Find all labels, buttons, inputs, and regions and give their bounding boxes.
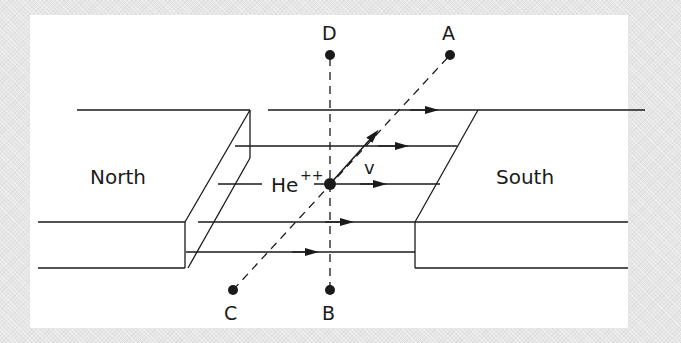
magnetic-field-diagram: North South D A C B He ++ v (0, 0, 681, 343)
particle-dot (324, 178, 336, 190)
point-b-dot (325, 285, 335, 295)
label-particle-charge: ++ (300, 167, 323, 183)
label-north: North (90, 165, 146, 189)
dashed-line-ca (233, 55, 450, 290)
point-c-dot (228, 285, 238, 295)
north-magnet (38, 110, 250, 268)
label-south: South (496, 165, 554, 189)
label-point-d: D (322, 22, 337, 44)
point-d-dot (325, 50, 335, 60)
label-point-a: A (442, 22, 455, 44)
south-magnet (415, 110, 645, 268)
label-point-b: B (322, 302, 335, 324)
label-point-c: C (224, 302, 237, 324)
point-a-dot (445, 50, 455, 60)
label-velocity: v (364, 157, 375, 178)
label-particle-symbol: He (271, 173, 298, 197)
